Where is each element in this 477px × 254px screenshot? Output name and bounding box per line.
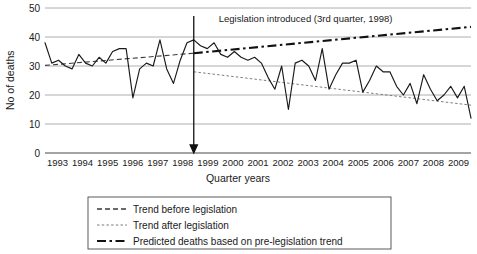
observed-deaths-series	[45, 40, 471, 118]
legend-label-trend-before: Trend before legislation	[133, 204, 237, 215]
post-legislation-trend-line	[194, 72, 471, 105]
legend-label-trend-after: Trend after legislation	[133, 220, 229, 231]
y-tick-label-0: 0	[34, 148, 40, 159]
legend-item-predicted[interactable]: Predicted deaths based on pre-legislatio…	[97, 236, 343, 247]
x-tick-label-2004: 2004	[323, 157, 344, 168]
predicted-trend-line	[194, 27, 471, 53]
y-axis-tick-labels: 50 40 30 20 10 0	[29, 3, 41, 159]
legislation-arrowhead	[190, 145, 197, 153]
x-tick-label-2005: 2005	[348, 157, 369, 168]
x-tick-label-1999: 1999	[197, 157, 218, 168]
legislation-marker: Legislation introduced (3rd quarter, 199…	[190, 13, 392, 153]
x-axis-title: Quarter years	[206, 172, 270, 184]
x-tick-label-2001: 2001	[247, 157, 268, 168]
y-tick-label-20: 20	[29, 90, 41, 101]
x-tick-label-1995: 1995	[97, 157, 118, 168]
x-tick-label-2002: 2002	[272, 157, 293, 168]
pre-legislation-trend-line	[45, 53, 194, 65]
legislation-annotation-label: Legislation introduced (3rd quarter, 199…	[219, 13, 393, 24]
x-tick-label-2007: 2007	[398, 157, 419, 168]
legend-label-predicted: Predicted deaths based on pre-legislatio…	[133, 236, 343, 247]
x-tick-label-1996: 1996	[122, 157, 143, 168]
x-tick-label-2006: 2006	[373, 157, 394, 168]
x-tick-label-2000: 2000	[222, 157, 243, 168]
x-axis-tick-labels: 1993199419951996199719981999200020012002…	[47, 157, 469, 168]
x-tick-label-1994: 1994	[72, 157, 93, 168]
y-axis-title: No of deaths	[4, 50, 16, 110]
legend-item-trend-before[interactable]: Trend before legislation	[97, 204, 237, 215]
y-tick-label-10: 10	[29, 119, 41, 130]
x-tick-label-2003: 2003	[298, 157, 319, 168]
x-tick-label-2009: 2009	[448, 157, 469, 168]
x-tick-label-2008: 2008	[423, 157, 444, 168]
y-tick-label-30: 30	[29, 61, 41, 72]
x-tick-label-1993: 1993	[47, 157, 68, 168]
x-tick-label-1998: 1998	[172, 157, 193, 168]
x-tick-label-1997: 1997	[147, 157, 168, 168]
y-tick-label-40: 40	[29, 32, 41, 43]
legend: Trend before legislation Trend after leg…	[88, 197, 391, 249]
gridlines	[45, 8, 471, 153]
interrupted-time-series-chart: 50 40 30 20 10 0 No of deaths 1993199419…	[0, 0, 477, 254]
legend-item-trend-after[interactable]: Trend after legislation	[97, 220, 229, 231]
chart-svg: 50 40 30 20 10 0 No of deaths 1993199419…	[0, 0, 477, 254]
y-tick-label-50: 50	[29, 3, 41, 14]
